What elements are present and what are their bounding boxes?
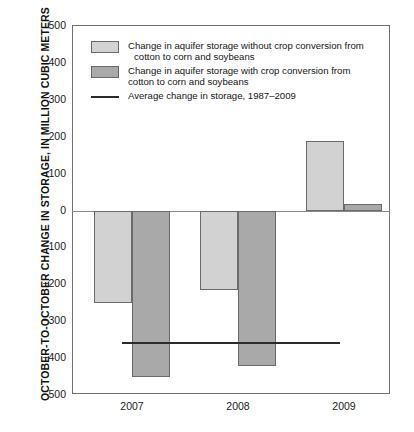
legend-label-with-conversion: Change in aquifer storage with crop conv… — [128, 65, 350, 88]
y-tick-label-100: 100 — [6, 167, 66, 179]
legend-label-without-conversion-line1: Change in aquifer storage without crop c… — [128, 40, 364, 51]
y-tick-label-200: 200 — [6, 130, 66, 142]
y-tick-label-400: 400 — [6, 56, 66, 68]
bar-2009-without-conversion — [306, 141, 344, 211]
legend-label-average-line: Average change in storage, 1987–2009 — [128, 90, 296, 101]
x-tick-label-2009: 2009 — [304, 400, 384, 412]
y-tick-label-n100: −100 — [6, 240, 66, 252]
bar-2007-with-conversion — [132, 211, 170, 377]
chart-legend: Change in aquifer storage without crop c… — [91, 40, 381, 105]
x-tick-label-2007: 2007 — [92, 400, 172, 412]
legend-label-without-conversion-line2: cotton to corn and soybeans — [128, 51, 364, 62]
legend-label-with-conversion-line2: cotton to corn and soybeans — [128, 76, 350, 87]
y-tick-label-n200: −200 — [6, 277, 66, 289]
legend-item-with-conversion: Change in aquifer storage with crop conv… — [91, 65, 381, 88]
y-tick-label-0: 0 — [6, 204, 66, 216]
y-tick-label-n500: −500 — [6, 388, 66, 400]
average-change-reference-line — [122, 342, 340, 344]
legend-label-with-conversion-line1: Change in aquifer storage with crop conv… — [128, 65, 350, 76]
y-tick-label-300: 300 — [6, 93, 66, 105]
light-gray-swatch-icon — [91, 41, 119, 53]
legend-label-average-line-text: Average change in storage, 1987–2009 — [128, 90, 296, 101]
bar-2009-with-conversion — [344, 204, 382, 211]
aquifer-storage-change-bar-chart: OCTOBER-TO-OCTOBER CHANGE IN STORAGE, IN… — [0, 0, 414, 432]
bar-2007-without-conversion — [94, 211, 132, 303]
x-tick-label-2008: 2008 — [198, 400, 278, 412]
legend-item-average-line: Average change in storage, 1987–2009 — [91, 90, 381, 103]
bar-2008-without-conversion — [200, 211, 238, 290]
legend-item-without-conversion: Change in aquifer storage without crop c… — [91, 40, 381, 63]
y-tick-label-n400: −400 — [6, 351, 66, 363]
y-tick-label-n300: −300 — [6, 314, 66, 326]
legend-label-without-conversion: Change in aquifer storage without crop c… — [128, 40, 364, 63]
y-tick-label-500: 500 — [6, 19, 66, 31]
line-swatch-icon — [91, 91, 119, 103]
dark-gray-swatch-icon — [91, 66, 119, 78]
